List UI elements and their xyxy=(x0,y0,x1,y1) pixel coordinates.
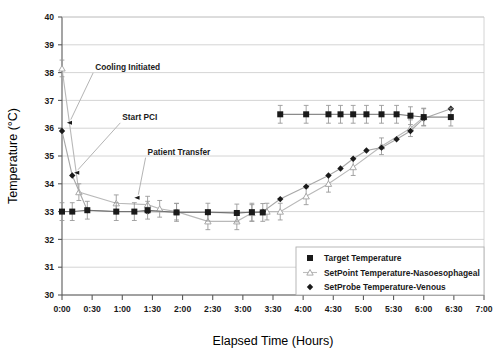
legend-entry-label: Target Temperature xyxy=(324,253,402,263)
data-marker-diamond xyxy=(69,172,75,178)
annotations: Cooling InitiatedStart PCIPatient Transf… xyxy=(67,62,211,200)
series-venous-probe xyxy=(59,106,454,217)
x-tick-label: 5:30 xyxy=(385,304,402,314)
chart-legend: Target TemperatureSetPoint Temperature-N… xyxy=(296,247,484,295)
annotation-arrowhead xyxy=(134,196,139,200)
y-tick-label: 31 xyxy=(44,262,54,272)
x-tick-label: 1:00 xyxy=(114,304,131,314)
temperature-vs-time-chart: 3031323334353637383940 0:000:301:001:302… xyxy=(0,0,504,358)
annotation-leader-line xyxy=(138,158,145,195)
x-axis-ticks: 0:000:301:001:302:002:303:003:304:004:30… xyxy=(53,295,492,314)
annotation-leader-line xyxy=(78,123,120,170)
data-marker-square xyxy=(249,209,255,215)
y-tick-label: 30 xyxy=(44,290,54,300)
annotation-label: Start PCI xyxy=(122,112,157,122)
data-marker-square xyxy=(307,255,313,261)
data-marker-square xyxy=(303,111,309,117)
chart-figure: 3031323334353637383940 0:000:301:001:302… xyxy=(0,0,504,358)
data-marker-square xyxy=(174,209,180,215)
y-tick-label: 34 xyxy=(44,179,54,189)
data-marker-square xyxy=(394,111,400,117)
y-tick-label: 32 xyxy=(44,235,54,245)
data-marker-square xyxy=(234,210,240,216)
data-marker-square xyxy=(421,114,427,120)
data-marker-square xyxy=(69,209,75,215)
annotation-label: Patient Transfer xyxy=(148,147,211,157)
x-tick-label: 7:00 xyxy=(475,304,492,314)
data-marker-diamond xyxy=(303,183,309,189)
x-tick-label: 4:30 xyxy=(325,304,342,314)
x-tick-label: 6:00 xyxy=(415,304,432,314)
data-marker-square xyxy=(260,209,266,215)
x-tick-label: 3:00 xyxy=(234,304,251,314)
y-tick-label: 37 xyxy=(44,96,54,106)
legend-entry-label: SetProbe Temperature-Venous xyxy=(324,282,446,292)
y-tick-label: 35 xyxy=(44,151,54,161)
y-axis-ticks: 3031323334353637383940 xyxy=(44,12,62,300)
data-marker-square xyxy=(145,207,151,213)
data-marker-square xyxy=(448,114,454,120)
x-tick-label: 4:00 xyxy=(295,304,312,314)
data-marker-square xyxy=(113,209,119,215)
data-marker-diamond xyxy=(363,147,369,153)
x-tick-label: 6:30 xyxy=(445,304,462,314)
y-tick-label: 38 xyxy=(44,68,54,78)
y-axis-title: Temperature (°C) xyxy=(6,108,20,204)
data-marker-open-triangle xyxy=(59,65,65,71)
x-tick-label: 2:00 xyxy=(174,304,191,314)
data-marker-diamond xyxy=(325,172,331,178)
y-tick-label: 39 xyxy=(44,40,54,50)
series-setpoint-nasoesophageal xyxy=(59,60,427,230)
x-tick-label: 1:30 xyxy=(144,304,161,314)
x-tick-label: 3:30 xyxy=(264,304,281,314)
data-marker-square xyxy=(350,111,356,117)
series-line xyxy=(62,109,451,213)
annotation-label: Cooling Initiated xyxy=(95,62,160,72)
data-marker-square xyxy=(379,111,385,117)
x-tick-label: 2:30 xyxy=(204,304,221,314)
data-marker-square xyxy=(205,209,211,215)
x-tick-label: 0:30 xyxy=(84,304,101,314)
x-tick-label: 0:00 xyxy=(53,304,70,314)
data-marker-open-triangle xyxy=(303,193,309,199)
data-marker-square xyxy=(338,111,344,117)
data-marker-square xyxy=(407,113,413,119)
data-marker-square xyxy=(59,209,65,215)
data-marker-square xyxy=(325,111,331,117)
annotation-leader-line xyxy=(71,73,93,120)
y-tick-label: 33 xyxy=(44,207,54,217)
y-tick-label: 40 xyxy=(44,12,54,22)
x-tick-label: 5:00 xyxy=(355,304,372,314)
data-marker-square xyxy=(363,111,369,117)
data-marker-square xyxy=(84,207,90,213)
data-marker-square xyxy=(277,111,283,117)
data-marker-square xyxy=(131,209,137,215)
y-tick-label: 36 xyxy=(44,123,54,133)
data-marker-diamond xyxy=(393,136,399,142)
legend-entry-label: SetPoint Temperature-Nasoesophageal xyxy=(324,268,480,278)
x-axis-title: Elapsed Time (Hours) xyxy=(213,334,334,348)
